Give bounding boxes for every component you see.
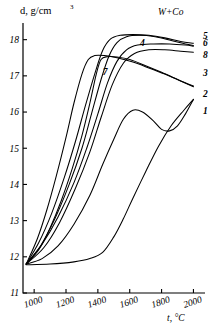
y-tick-label: 16 (10, 107, 20, 117)
curve-label-2: 2 (202, 89, 208, 99)
curve-4 (26, 44, 193, 264)
curve-label-3: 3 (202, 68, 208, 78)
y-tick-label: 18 (10, 35, 20, 45)
y-tick-label: 17 (10, 71, 21, 81)
curves-layer (26, 35, 193, 265)
x-axis-label: t, °C (167, 313, 185, 323)
curve-label-6: 6 (203, 38, 208, 48)
x-tick-label: 1600 (118, 294, 139, 309)
x-tick-label: 1200 (55, 294, 76, 309)
curve-1 (26, 99, 193, 264)
curve-label-8: 8 (203, 50, 208, 60)
x-tick-label: 1400 (86, 294, 107, 309)
labels-layer: 1112131415161718100012001400160018002000… (10, 31, 209, 310)
chart-title: W+Co (158, 7, 184, 17)
y-tick-label: 13 (10, 216, 20, 226)
y-axis-label: d, g/cm (20, 5, 52, 16)
curve-7 (26, 55, 193, 264)
curve-3 (26, 56, 193, 264)
curve-label-1: 1 (203, 106, 208, 116)
x-tick-label: 1800 (150, 294, 171, 309)
y-axis-label-exponent: 3 (70, 3, 74, 11)
curve-2 (26, 99, 193, 264)
y-tick-label: 15 (10, 144, 20, 154)
y-tick-label: 14 (10, 180, 20, 190)
y-tick-label: 11 (10, 288, 19, 298)
curve-8 (26, 49, 193, 264)
x-tick-label: 2000 (182, 294, 203, 309)
chart-figure: 1112131415161718100012001400160018002000… (0, 0, 217, 324)
y-tick-label: 12 (10, 252, 20, 262)
x-tick-label: 1000 (23, 294, 44, 309)
curve-label-4: 4 (139, 38, 145, 48)
curve-label-7: 7 (103, 67, 109, 77)
density-temperature-plot: 1112131415161718100012001400160018002000… (0, 0, 217, 324)
